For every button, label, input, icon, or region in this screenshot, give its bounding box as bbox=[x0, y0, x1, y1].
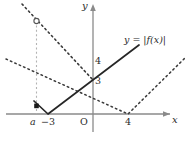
x-axis-label: x bbox=[172, 115, 178, 125]
x-tick-neg-three: −3 bbox=[41, 117, 55, 127]
graph-canvas bbox=[0, 0, 186, 141]
y-axis-label: y bbox=[82, 1, 88, 11]
dashed-v-curve bbox=[6, 58, 185, 114]
origin-label: O bbox=[80, 117, 88, 127]
y-axis-arrow bbox=[90, 4, 96, 11]
math-figure-graph: y x O a −3 4 4 3 y = |f(x)| bbox=[0, 0, 186, 141]
filled-square-marker bbox=[34, 104, 39, 109]
x-label-a: a bbox=[30, 117, 36, 127]
curve-equation-label: y = |f(x)| bbox=[124, 35, 166, 45]
dashed-upper-left-path bbox=[22, 4, 93, 80]
x-tick-four: 4 bbox=[125, 117, 131, 127]
y-axis bbox=[90, 4, 96, 132]
x-axis-arrow bbox=[163, 111, 170, 117]
dashed-v-path bbox=[6, 58, 185, 114]
y-tick-three: 3 bbox=[95, 76, 101, 86]
open-circle-marker bbox=[34, 18, 39, 23]
dashed-upper-left-branch bbox=[22, 4, 93, 80]
y-tick-four: 4 bbox=[95, 56, 101, 66]
graph-markers bbox=[34, 18, 39, 108]
